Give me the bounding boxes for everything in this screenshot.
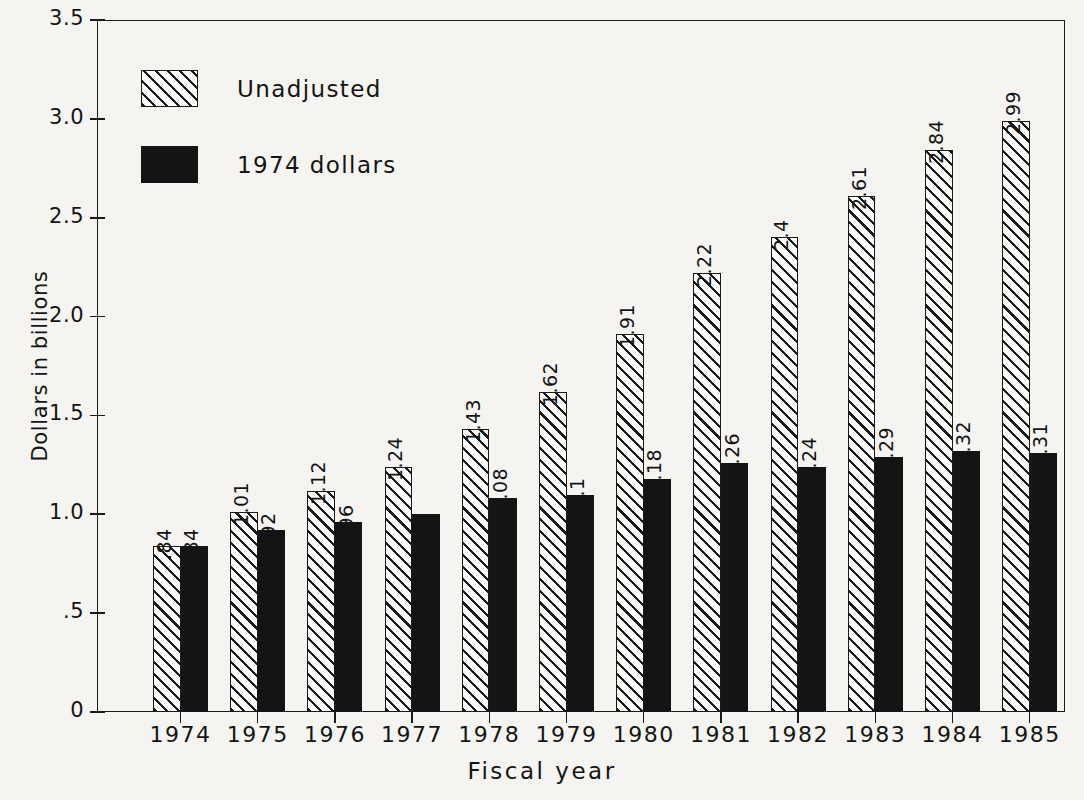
bar-hatched-1982	[771, 237, 799, 712]
legend-item-unadjusted: Unadjusted	[141, 70, 382, 107]
y-axis-tick-label: .5	[0, 599, 84, 623]
y-axis-tick-label: 1.5	[0, 401, 84, 425]
bar-value-label: .96	[335, 505, 357, 536]
legend-item-constant-dollars: 1974 dollars	[141, 146, 397, 183]
x-axis-tick-label: 1981	[690, 722, 752, 747]
x-axis-tick-label: 1977	[381, 722, 443, 747]
bar-solid-1974	[181, 546, 209, 712]
bar-solid-1982	[798, 467, 826, 712]
bar-value-label: 1.08	[489, 469, 511, 513]
y-axis-tick-label: 2.5	[0, 204, 84, 228]
bar-solid-1975	[258, 530, 286, 712]
x-axis-title: Fiscal year	[0, 758, 1084, 784]
bar-solid-1978	[489, 498, 517, 712]
bar-solid-1977	[412, 514, 440, 712]
bar-value-label: 1.31	[1029, 423, 1051, 467]
bar-hatched-1978	[462, 429, 490, 712]
bar-value-label: 2.22	[693, 243, 715, 287]
bar-solid-1976	[335, 522, 363, 712]
bar-solid-1980	[644, 479, 672, 712]
x-axis-tick-label: 1975	[227, 722, 289, 747]
bar-solid-1984	[953, 451, 981, 712]
bar-value-label: 1.26	[721, 433, 743, 477]
bar-hatched-1985	[1002, 121, 1030, 712]
y-axis-tick-mark	[90, 217, 105, 219]
bar-hatched-1981	[693, 273, 721, 712]
bar-chart-figure: Dollars in billions Fiscal year 0.51.01.…	[0, 0, 1084, 800]
x-axis-tick-label: 1985	[999, 722, 1061, 747]
bar-value-label: 1.01	[230, 482, 252, 526]
y-axis-title: Dollars in billions	[28, 271, 52, 462]
bar-value-label: 1.29	[875, 427, 897, 471]
bar-solid-1985	[1030, 453, 1058, 712]
y-axis-tick-mark	[90, 415, 105, 417]
bar-hatched-1984	[925, 150, 953, 712]
bar-value-label: 1.18	[643, 449, 665, 493]
bar-value-label: 1.12	[307, 461, 329, 505]
y-axis-tick-mark	[90, 711, 105, 713]
bar-value-label: 1.62	[539, 362, 561, 406]
y-axis-tick-label: 1.0	[0, 500, 84, 524]
bar-value-label: 1.1	[566, 477, 588, 508]
bar-value-label: 1.24	[798, 437, 820, 481]
y-axis-tick-mark	[90, 19, 105, 21]
bar-hatched-1976	[307, 491, 335, 712]
bar-solid-1983	[875, 457, 903, 712]
y-axis-tick-mark	[90, 513, 105, 515]
legend-swatch-icon	[141, 146, 198, 183]
bar-value-label: 1.32	[952, 421, 974, 465]
bar-hatched-1979	[539, 392, 567, 712]
bar-hatched-1980	[616, 334, 644, 712]
y-axis-tick-label: 3.5	[0, 6, 84, 30]
y-axis-tick-label: 0	[0, 698, 84, 722]
bar-value-label: 1	[412, 516, 434, 529]
bar-value-label: .84	[153, 528, 175, 559]
y-axis-tick-label: 2.0	[0, 303, 84, 327]
bar-value-label: 2.61	[848, 166, 870, 210]
bar-value-label: .84	[180, 528, 202, 559]
bar-value-label: .92	[257, 513, 279, 544]
x-axis-tick-label: 1980	[613, 722, 675, 747]
bar-value-label: 2.99	[1002, 91, 1024, 135]
bar-value-label: 2.84	[925, 121, 947, 165]
bar-solid-1981	[721, 463, 749, 712]
bar-hatched-1977	[385, 467, 413, 712]
legend-label: 1974 dollars	[237, 152, 397, 178]
bar-solid-1979	[567, 495, 595, 712]
legend-swatch-icon	[141, 70, 198, 107]
y-axis-tick-mark	[90, 612, 105, 614]
y-axis-tick-mark	[90, 316, 105, 318]
bar-hatched-1975	[230, 512, 258, 712]
bar-hatched-1983	[848, 196, 876, 712]
bar-hatched-1974	[153, 546, 181, 712]
bar-value-label: 1.43	[462, 399, 484, 443]
x-axis-tick-label: 1983	[844, 722, 906, 747]
x-axis-tick-label: 1978	[458, 722, 520, 747]
bar-value-label: 2.4	[770, 220, 792, 251]
x-axis-tick-label: 1976	[304, 722, 366, 747]
bar-value-label: 1.91	[616, 304, 638, 348]
x-axis-tick-label: 1984	[922, 722, 984, 747]
x-axis-tick-label: 1979	[536, 722, 598, 747]
legend-label: Unadjusted	[237, 76, 382, 102]
y-axis-tick-mark	[90, 118, 105, 120]
bar-value-label: 1.24	[384, 437, 406, 481]
x-axis-tick-label: 1974	[150, 722, 212, 747]
x-axis-tick-label: 1982	[767, 722, 829, 747]
y-axis-tick-label: 3.0	[0, 105, 84, 129]
